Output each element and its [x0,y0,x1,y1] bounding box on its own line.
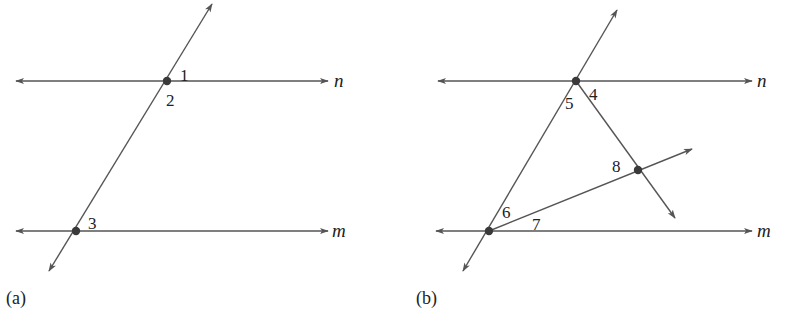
angle-label-6: 6 [502,203,511,222]
angle-label-4: 4 [589,85,598,104]
point-intersection-m-a [72,227,80,235]
angle-label-3: 3 [88,214,97,233]
caption-b: (b) [416,288,437,309]
label-line-n-a: n [334,70,344,91]
angle-label-5: 5 [565,94,574,113]
angle-label-1: 1 [180,66,189,85]
point-intersection-n-b [572,77,580,85]
caption-a: (a) [6,288,26,309]
point-intersection-n-a [163,77,171,85]
point-intersection-interior-b [634,166,642,174]
figure-a: n m 1 2 3 (a) [6,4,346,309]
angle-label-8: 8 [612,157,621,176]
diagram-canvas: n m 1 2 3 (a) n m 4 5 6 7 8 (b) [0,0,792,322]
label-line-n-b: n [757,70,767,91]
angle-label-2: 2 [166,91,175,110]
label-line-m-a: m [332,220,346,241]
point-intersection-m-b [485,227,493,235]
angle-label-7: 7 [532,215,541,234]
figure-b: n m 4 5 6 7 8 (b) [416,10,771,309]
label-line-m-b: m [757,220,771,241]
transversal-3-b [489,149,692,231]
